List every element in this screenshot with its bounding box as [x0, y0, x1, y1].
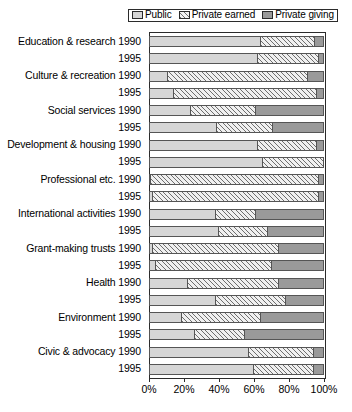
- x-axis-tick: [324, 378, 325, 382]
- x-axis-tick-label: 20%: [173, 383, 194, 395]
- segment-private-earned: [153, 243, 279, 254]
- y-axis-label: 1995: [0, 225, 145, 236]
- segment-private-earned: [156, 260, 272, 271]
- segment-private-earned: [168, 71, 308, 82]
- bar-row: [149, 174, 324, 185]
- segment-private-earned: [174, 88, 318, 99]
- segment-private-giving: [319, 174, 324, 185]
- segment-private-giving: [256, 105, 324, 116]
- bar-row: [149, 191, 324, 202]
- y-axis-label: Development & housing 1990: [0, 139, 145, 150]
- y-axis-label: Health 1990: [0, 277, 145, 288]
- segment-private-earned: [217, 122, 273, 133]
- y-axis-label: Professional etc. 1990: [0, 174, 145, 185]
- segment-private-giving: [256, 209, 324, 220]
- bar-row: [149, 295, 324, 306]
- x-axis-tick: [289, 378, 290, 382]
- y-axis-label: Civic & advocacy 1990: [0, 346, 145, 357]
- segment-public: [149, 329, 195, 340]
- bar-row: [149, 226, 324, 237]
- legend-label-private-giving: Private giving: [275, 10, 334, 20]
- x-axis-tick: [184, 378, 185, 382]
- segment-private-earned: [254, 364, 314, 375]
- y-axis-label: International activities 1990: [0, 208, 145, 219]
- x-axis-tick: [149, 378, 150, 382]
- y-axis-label: 1995: [0, 122, 145, 133]
- segment-private-earned: [258, 140, 318, 151]
- y-axis-label: Education & research 1990: [0, 36, 145, 47]
- bar-row: [149, 260, 324, 271]
- y-axis-label: 1995: [0, 329, 145, 340]
- segment-private-giving: [279, 278, 325, 289]
- segment-private-giving: [308, 71, 324, 82]
- segment-public: [149, 209, 216, 220]
- segment-public: [149, 226, 219, 237]
- y-axis-label: 1995: [0, 260, 145, 271]
- x-axis-tick: [219, 378, 220, 382]
- y-axis-label: Environment 1990: [0, 312, 145, 323]
- x-axis-tick-label: 40%: [208, 383, 229, 395]
- segment-private-giving: [268, 226, 324, 237]
- bar-row: [149, 312, 324, 323]
- y-axis-label: 1995: [0, 363, 145, 374]
- private-giving-swatch-icon: [262, 11, 273, 19]
- bar-row: [149, 36, 324, 47]
- segment-public: [149, 312, 182, 323]
- segment-public: [149, 260, 156, 271]
- chart-legend: Public Private earned Private giving: [128, 9, 338, 22]
- segment-public: [149, 53, 258, 64]
- bar-row: [149, 209, 324, 220]
- bar-row: [149, 347, 324, 358]
- bar-row: [149, 364, 324, 375]
- segment-private-earned: [195, 329, 246, 340]
- bar-row: [149, 53, 324, 64]
- legend-label-public: Public: [145, 10, 172, 20]
- segment-private-earned: [249, 347, 314, 358]
- legend-entry-public: Public: [132, 10, 172, 20]
- x-axis-tick-labels: 0%20%40%60%80%100%: [0, 383, 352, 397]
- segment-public: [149, 122, 217, 133]
- private-earned-swatch-icon: [179, 11, 190, 19]
- y-axis-label: 1995: [0, 191, 145, 202]
- bar-row: [149, 71, 324, 82]
- x-axis-tick-label: 100%: [311, 383, 338, 395]
- segment-private-earned: [151, 174, 319, 185]
- public-swatch-icon: [132, 11, 143, 19]
- x-axis-tick: [254, 378, 255, 382]
- segment-private-giving: [261, 312, 324, 323]
- segment-public: [149, 36, 261, 47]
- x-axis-tick-label: 60%: [243, 383, 264, 395]
- bar-row: [149, 140, 324, 151]
- segment-private-earned: [261, 36, 315, 47]
- segment-private-giving: [314, 364, 325, 375]
- segment-private-giving: [317, 140, 324, 151]
- y-axis-label: Culture & recreation 1990: [0, 70, 145, 81]
- segment-public: [149, 157, 263, 168]
- y-axis-label: Social services 1990: [0, 105, 145, 116]
- bar-row: [149, 122, 324, 133]
- y-axis-label: 1995: [0, 87, 145, 98]
- x-axis-tick-label: 80%: [278, 383, 299, 395]
- y-axis-label: 1995: [0, 53, 145, 64]
- segment-public: [149, 295, 216, 306]
- bar-row: [149, 105, 324, 116]
- segment-private-earned: [219, 226, 268, 237]
- legend-entry-private-earned: Private earned: [179, 10, 256, 20]
- segment-private-giving: [273, 122, 324, 133]
- segment-public: [149, 347, 249, 358]
- y-axis-label: 1995: [0, 294, 145, 305]
- segment-private-giving: [286, 295, 325, 306]
- segment-private-earned: [216, 295, 286, 306]
- segment-public: [149, 140, 258, 151]
- segment-public: [149, 71, 168, 82]
- segment-private-giving: [279, 243, 325, 254]
- segment-private-earned: [258, 53, 319, 64]
- segment-private-giving: [272, 260, 325, 271]
- segment-private-earned: [182, 312, 261, 323]
- legend-entry-private-giving: Private giving: [262, 10, 334, 20]
- segment-private-earned: [191, 105, 256, 116]
- bar-row: [149, 88, 324, 99]
- segment-private-earned: [188, 278, 279, 289]
- y-axis-label: 1995: [0, 156, 145, 167]
- segment-public: [149, 364, 254, 375]
